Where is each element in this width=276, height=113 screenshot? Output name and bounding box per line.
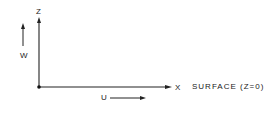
w-velocity-label: W bbox=[20, 52, 28, 60]
u-arrowhead-icon bbox=[140, 96, 146, 100]
z-axis-label: Z bbox=[36, 8, 41, 16]
coordinate-diagram: Z W X U SURFACE (Z=0) bbox=[0, 0, 276, 113]
origin-dot bbox=[37, 85, 41, 89]
w-arrowhead-icon bbox=[21, 23, 25, 29]
diagram-svg bbox=[0, 0, 276, 113]
u-velocity-label: U bbox=[101, 94, 107, 102]
surface-label: SURFACE (Z=0) bbox=[192, 83, 264, 91]
x-axis bbox=[39, 85, 172, 89]
z-axis bbox=[37, 17, 41, 87]
x-axis-arrowhead-icon bbox=[165, 85, 172, 89]
u-velocity-arrow bbox=[110, 96, 146, 100]
z-axis-arrowhead-icon bbox=[37, 17, 41, 23]
x-axis-label: X bbox=[175, 84, 181, 92]
w-velocity-arrow bbox=[21, 23, 25, 46]
